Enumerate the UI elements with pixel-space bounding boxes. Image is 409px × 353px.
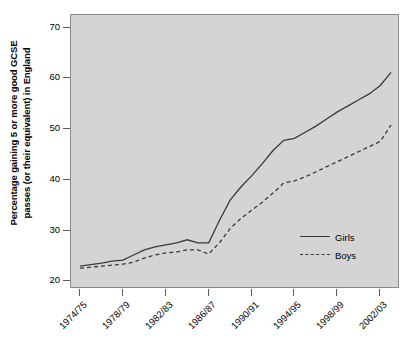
x-tick-label: 1974/75 bbox=[48, 299, 88, 339]
y-tick-label: 60 bbox=[20, 72, 60, 82]
x-tick bbox=[379, 289, 380, 296]
legend-label: Boys bbox=[335, 250, 356, 261]
x-tick-label: 1994/95 bbox=[263, 299, 303, 339]
x-tick-label: 1982/83 bbox=[134, 299, 174, 339]
y-tick-label: 20 bbox=[20, 275, 60, 285]
x-tick bbox=[122, 289, 123, 296]
y-tick bbox=[63, 230, 70, 231]
x-tick bbox=[293, 289, 294, 296]
x-tick-label: 1998/99 bbox=[306, 299, 346, 339]
x-tick-label: 1990/91 bbox=[220, 299, 260, 339]
legend: GirlsBoys bbox=[300, 228, 356, 264]
y-tick-label: 30 bbox=[20, 225, 60, 235]
x-tick bbox=[79, 289, 80, 296]
legend-item-girls: Girls bbox=[300, 228, 356, 246]
x-tick bbox=[251, 289, 252, 296]
chart-figure: Percentage gaining 5 or more good GCSE p… bbox=[0, 0, 409, 353]
y-tick bbox=[63, 128, 70, 129]
legend-key-dashed-line-icon bbox=[300, 250, 330, 260]
y-tick bbox=[63, 179, 70, 180]
x-tick-label: 1986/87 bbox=[177, 299, 217, 339]
y-tick bbox=[63, 77, 70, 78]
x-tick bbox=[336, 289, 337, 296]
y-tick bbox=[63, 27, 70, 28]
x-tick bbox=[165, 289, 166, 296]
y-tick-label: 40 bbox=[20, 174, 60, 184]
legend-key-solid-line-icon bbox=[300, 232, 330, 242]
y-tick-label: 70 bbox=[20, 22, 60, 32]
legend-item-boys: Boys bbox=[300, 246, 356, 264]
x-tick bbox=[208, 289, 209, 296]
y-tick bbox=[63, 280, 70, 281]
legend-label: Girls bbox=[335, 232, 355, 243]
y-tick-label: 50 bbox=[20, 123, 60, 133]
x-tick-label: 1978/79 bbox=[91, 299, 131, 339]
y-axis-title-line1: Percentage gaining 5 or more good GCSE bbox=[8, 0, 21, 273]
x-tick-label: 2002/03 bbox=[349, 299, 389, 339]
